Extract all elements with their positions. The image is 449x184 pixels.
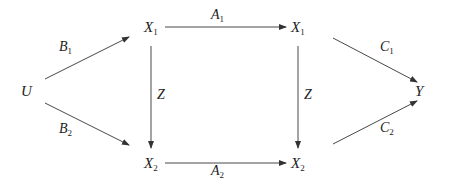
node-x2-left: X2: [144, 156, 158, 173]
arrow-c1: [333, 38, 417, 82]
edge-label-b1: B1: [59, 40, 72, 56]
node-u: U: [21, 84, 32, 99]
arrow-b1: [45, 37, 129, 79]
edge-label-a2: A2: [211, 164, 224, 180]
node-y: Y: [415, 84, 423, 99]
edge-label-c2: C2: [380, 121, 394, 137]
edge-label-z-left: Z: [157, 88, 165, 102]
node-x1-left: X1: [144, 20, 158, 37]
arrow-b2: [45, 103, 129, 145]
diagram-arrows: [0, 0, 449, 184]
node-x1-right: X1: [291, 20, 305, 37]
edge-label-z-right: Z: [304, 88, 312, 102]
edge-label-a1: A1: [211, 8, 224, 24]
edge-label-c1: C1: [380, 40, 394, 56]
arrow-c2: [333, 101, 417, 144]
edge-label-b2: B2: [59, 122, 72, 138]
node-x2-right: X2: [291, 156, 305, 173]
